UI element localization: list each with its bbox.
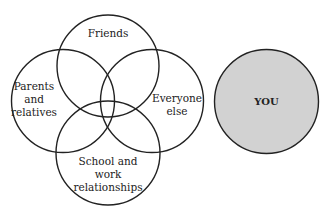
friends-label: Friends <box>88 27 129 39</box>
parents-label-line-2: and <box>24 93 44 105</box>
parents-label-line-3: relatives <box>11 106 57 118</box>
relationship-venn-diagram: Friends Parents and relatives Everyone e… <box>0 0 331 217</box>
school-label-line-3: relationships <box>73 181 142 193</box>
everyone-label-line-1: Everyone <box>152 92 202 104</box>
you-label: YOU <box>253 96 279 107</box>
school-label-line-1: School and <box>79 155 138 167</box>
everyone-label-line-2: else <box>166 105 187 117</box>
parents-label-line-1: Parents <box>14 80 54 92</box>
school-label-line-2: work <box>95 168 122 180</box>
